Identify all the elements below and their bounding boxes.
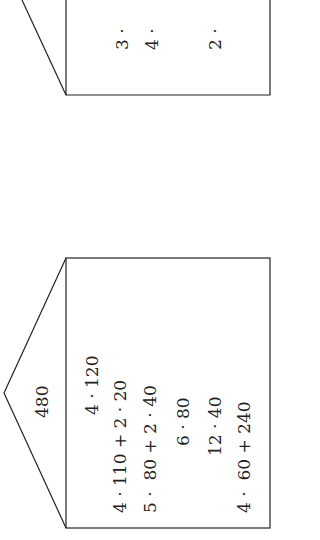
equation-line-2: 4 · 110 + 2 · 20 bbox=[110, 380, 130, 513]
upper-fragment-2: 4 · bbox=[142, 28, 162, 50]
equation-line-4: 6 · 80 bbox=[173, 397, 193, 446]
lower-house-content: 4 · 120 4 · 110 + 2 · 20 5 · 80 + 2 · 40… bbox=[66, 258, 270, 528]
upper-house-content: 3 · 4 · 2 · bbox=[110, 10, 260, 50]
equation-line-5: 12 · 40 bbox=[205, 397, 225, 456]
equation-line-6: 4 · 60 + 240 bbox=[234, 401, 254, 513]
lower-roof: 480 bbox=[32, 358, 54, 418]
equation-line-3: 5 · 80 + 2 · 40 bbox=[140, 385, 160, 513]
equation-line-1: 4 · 120 bbox=[82, 356, 102, 415]
roof-value: 480 bbox=[32, 386, 52, 418]
upper-fragment-1: 3 · bbox=[112, 28, 132, 50]
upper-fragment-3: 2 · bbox=[205, 28, 225, 50]
